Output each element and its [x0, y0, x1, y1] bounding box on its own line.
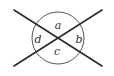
angle-label-c: c [54, 45, 60, 58]
angle-label-a: a [55, 19, 62, 32]
angle-label-b: b [75, 33, 82, 46]
angle-diagram: a b c d [0, 0, 114, 76]
angle-label-d: d [34, 33, 41, 46]
